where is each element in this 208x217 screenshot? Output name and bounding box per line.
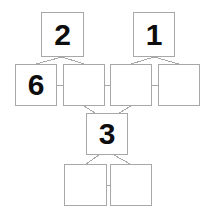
node-mid-3[interactable]: [110, 64, 152, 106]
node-top-right-label: 1: [146, 20, 163, 50]
node-bottom-right[interactable]: [110, 164, 152, 206]
node-mid-2[interactable]: [63, 64, 105, 106]
node-bottom-left[interactable]: [64, 164, 107, 206]
node-top-left-label: 2: [54, 20, 71, 50]
number-box-diagram: 2163: [0, 0, 208, 217]
node-top-right[interactable]: 1: [133, 12, 175, 57]
node-top-left[interactable]: 2: [41, 12, 84, 57]
node-layer: 2163: [0, 0, 208, 217]
node-center-label: 3: [99, 119, 116, 149]
node-mid-1[interactable]: 6: [15, 64, 57, 106]
node-center[interactable]: 3: [86, 113, 128, 155]
node-mid-1-label: 6: [28, 70, 45, 100]
node-mid-4[interactable]: [158, 64, 200, 106]
